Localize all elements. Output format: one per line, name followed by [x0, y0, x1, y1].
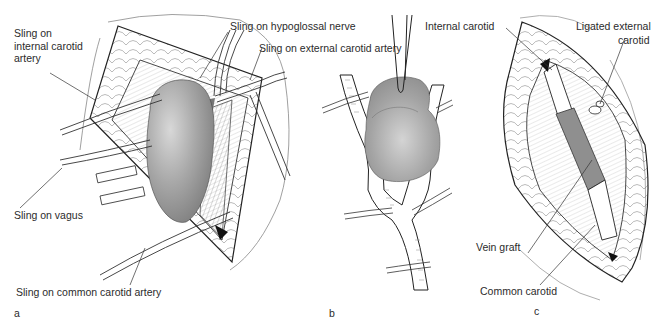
label-internal-carotid: Internal carotid: [425, 20, 494, 33]
panel-a-illustration: [60, 14, 290, 280]
label-vein-graft: Vein graft: [476, 241, 520, 254]
panel-b-illustration: [322, 15, 453, 290]
label-sling-external-carotid: Sling on external carotid artery: [259, 42, 401, 55]
panel-c-illustration: [504, 16, 648, 300]
caption-bleed-through: [0, 318, 666, 329]
label-sling-internal-carotid: Sling on internal carotid artery: [14, 27, 84, 65]
label-ligated-external-carotid-line1: Ligated external: [576, 20, 651, 33]
panel-letter-c: c: [534, 305, 539, 317]
label-common-carotid: Common carotid: [480, 285, 557, 298]
label-sling-hypoglossal: Sling on hypoglossal nerve: [230, 20, 356, 33]
label-sling-common-carotid: Sling on common carotid artery: [16, 286, 161, 299]
surgical-figure: Sling on internal carotid artery Sling o…: [0, 0, 666, 329]
label-sling-vagus: Sling on vagus: [14, 209, 83, 222]
label-ligated-external-carotid-line2: carotid: [618, 34, 650, 47]
